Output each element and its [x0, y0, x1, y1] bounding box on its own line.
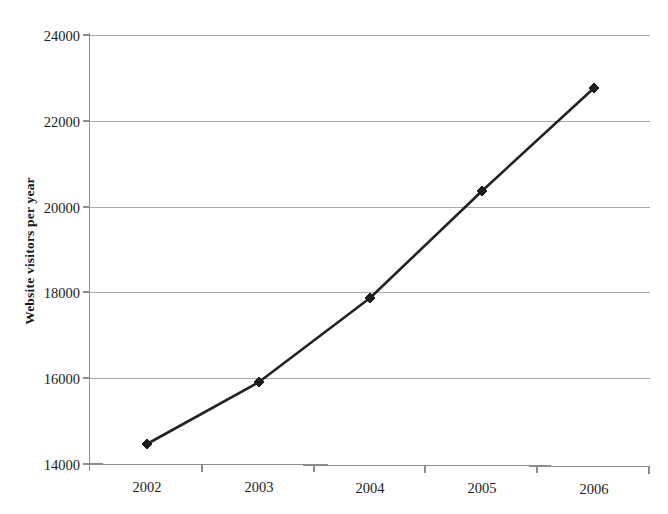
x-tick-label-2006: 2006 [580, 481, 609, 497]
y-tick-label-16000: 16000 [44, 371, 80, 387]
y-tick-label-14000: 14000 [44, 457, 80, 473]
y-tick-label-22000: 22000 [44, 114, 80, 130]
chart-background [0, 0, 668, 514]
chart-figure: 24000 22000 20000 18000 16000 14000 2002… [0, 0, 668, 514]
y-tick-label-20000: 20000 [44, 200, 80, 216]
y-tick-label-24000: 24000 [44, 28, 80, 44]
x-tick-label-2004: 2004 [356, 480, 386, 496]
x-tick-label-2003: 2003 [245, 479, 274, 495]
gridline-22000 [89, 121, 650, 122]
x-tick-label-2005: 2005 [468, 480, 497, 496]
line-chart-canvas: 24000 22000 20000 18000 16000 14000 2002… [0, 0, 668, 514]
y-axis-title: Website visitors per year [22, 177, 37, 325]
gridline-24000 [89, 35, 650, 36]
y-tick-label-18000: 18000 [44, 285, 80, 301]
x-tick-label-2002: 2002 [133, 479, 162, 495]
gridline-20000 [89, 207, 650, 208]
